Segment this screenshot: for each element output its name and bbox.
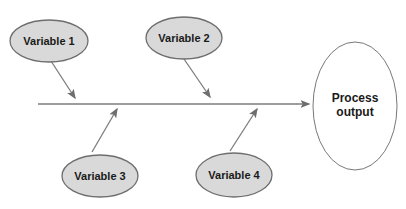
variable2-label: Variable 2	[158, 32, 209, 44]
variable1-arrow	[51, 61, 75, 98]
variable2-arrow	[184, 59, 210, 97]
process-output-label-line1: Process	[332, 91, 379, 105]
variable3-label: Variable 3	[74, 170, 125, 182]
variable4-arrow	[230, 109, 257, 151]
variable4-label: Variable 4	[208, 169, 260, 181]
fishbone-diagram: Variable 1 Variable 2 Variable 3 Variabl…	[0, 0, 406, 209]
diagram-canvas: Variable 1 Variable 2 Variable 3 Variabl…	[0, 0, 406, 209]
variable1-label: Variable 1	[23, 35, 74, 47]
process-output-label-line2: output	[336, 105, 373, 119]
variable3-arrow	[92, 109, 117, 152]
